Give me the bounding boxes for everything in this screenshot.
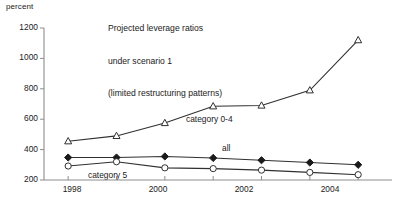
series-category-0-4: [65, 36, 362, 143]
x-tick-marks: [68, 176, 358, 180]
data-point: [306, 159, 313, 166]
chart-figure: percent Projected leverage ratios under …: [0, 0, 401, 204]
data-point: [161, 153, 168, 160]
data-point: [258, 167, 264, 173]
data-point: [355, 172, 361, 178]
y-tick-marks: [40, 28, 44, 180]
data-point: [113, 159, 119, 165]
data-point: [65, 154, 72, 161]
data-point: [355, 36, 362, 42]
data-point: [65, 163, 71, 169]
series-line: [68, 40, 358, 141]
data-series-layer: [65, 36, 362, 177]
data-point: [258, 157, 265, 164]
chart-plot-area: [0, 0, 401, 204]
data-point: [162, 165, 168, 171]
data-point: [210, 154, 217, 161]
data-point: [355, 161, 362, 168]
data-point: [210, 166, 216, 172]
data-point: [307, 169, 313, 175]
